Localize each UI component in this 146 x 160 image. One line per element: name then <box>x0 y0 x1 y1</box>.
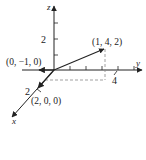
z-tick-label: 2 <box>41 34 46 45</box>
x-axis-label: x <box>11 116 16 126</box>
z-axis-label: z <box>46 2 51 12</box>
point-label-2-0-0: (2, 0, 0) <box>31 96 61 107</box>
point-label-0-neg1-0: (0, −1, 0) <box>6 57 41 68</box>
vector-1-4-2: (1, 4, 2) <box>54 37 122 70</box>
y-tick-label: 4 <box>112 75 117 86</box>
point-label-1-4-2: (1, 4, 2) <box>92 37 122 48</box>
z-axis: z 2 <box>41 2 58 70</box>
y-axis-label: y <box>135 58 140 68</box>
x-tick-label: 2 <box>25 86 30 97</box>
vector-0-neg1-0: (0, −1, 0) <box>6 57 54 70</box>
vector-diagram: z 2 y 4 2 x (1, 4, 2) (0, −1, 0) (2, 0, … <box>0 0 146 160</box>
x-tick <box>37 89 41 92</box>
vector-2-0-0: (2, 0, 0) <box>31 70 61 107</box>
